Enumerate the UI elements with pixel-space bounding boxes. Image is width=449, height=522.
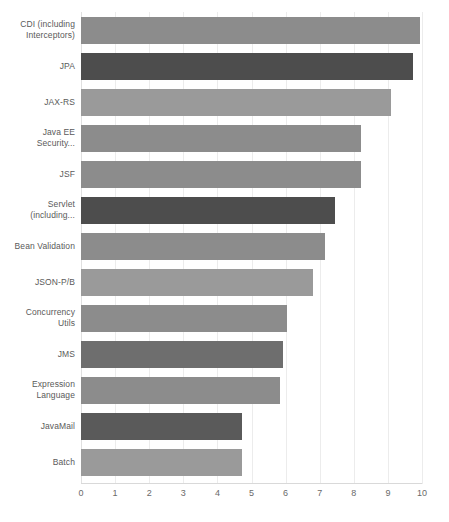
bar-row bbox=[81, 300, 422, 336]
bar-row bbox=[81, 48, 422, 84]
x-axis-tick-8: 8 bbox=[351, 488, 356, 498]
y-axis-label-line: Concurrency bbox=[26, 307, 75, 318]
y-axis-label-line: Bean Validation bbox=[15, 241, 75, 252]
y-axis-label: CDI (includingInterceptors) bbox=[0, 12, 75, 48]
y-axis-label: ConcurrencyUtils bbox=[0, 300, 75, 336]
y-axis-label-line: JSON-P/B bbox=[35, 277, 75, 288]
y-axis-label: JSF bbox=[0, 156, 75, 192]
bar-row bbox=[81, 84, 422, 120]
bar-row bbox=[81, 336, 422, 372]
bar bbox=[81, 197, 335, 224]
x-axis-tick-2: 2 bbox=[147, 488, 152, 498]
y-axis-label-line: JavaMail bbox=[41, 421, 75, 432]
bar bbox=[81, 413, 242, 440]
y-axis-label-line: JSF bbox=[60, 169, 75, 180]
y-axis-label: Batch bbox=[0, 444, 75, 480]
y-axis-label: ExpressionLanguage bbox=[0, 372, 75, 408]
bar-row bbox=[81, 408, 422, 444]
y-axis-label: Java EESecurity... bbox=[0, 120, 75, 156]
x-axis-tick-1: 1 bbox=[113, 488, 118, 498]
x-axis-tick-0: 0 bbox=[78, 488, 83, 498]
bar bbox=[81, 233, 325, 260]
y-axis-label-line: CDI (including bbox=[20, 19, 75, 30]
x-axis-tick-4: 4 bbox=[215, 488, 220, 498]
y-axis-label: JPA bbox=[0, 48, 75, 84]
x-axis-tick-7: 7 bbox=[317, 488, 322, 498]
y-axis-label-line: Java EE bbox=[37, 127, 75, 138]
bar-row bbox=[81, 192, 422, 228]
y-axis-label-line: Utils bbox=[26, 318, 75, 329]
x-axis-line bbox=[81, 483, 422, 484]
y-axis-category-labels: CDI (includingInterceptors)JPAJAX-RSJava… bbox=[0, 12, 75, 484]
bar bbox=[81, 125, 361, 152]
bar bbox=[81, 17, 420, 44]
bar-row bbox=[81, 372, 422, 408]
bar bbox=[81, 449, 242, 476]
y-axis-label-line: Language bbox=[32, 390, 75, 401]
y-axis-label-line: JMS bbox=[58, 349, 75, 360]
bar bbox=[81, 377, 280, 404]
bar bbox=[81, 89, 391, 116]
bar bbox=[81, 305, 287, 332]
y-axis-label-line: JPA bbox=[60, 61, 75, 72]
x-axis-tick-9: 9 bbox=[385, 488, 390, 498]
x-axis-tick-5: 5 bbox=[249, 488, 254, 498]
y-axis-label-line: Batch bbox=[53, 457, 75, 468]
y-axis-label-line: Expression bbox=[32, 379, 75, 390]
x-axis-tick-10: 10 bbox=[417, 488, 427, 498]
y-axis-label: JSON-P/B bbox=[0, 264, 75, 300]
x-axis-tick-labels: 012345678910 bbox=[81, 488, 422, 508]
gridline-10 bbox=[422, 12, 423, 484]
bar-row bbox=[81, 264, 422, 300]
x-axis-tick-6: 6 bbox=[283, 488, 288, 498]
bar bbox=[81, 53, 413, 80]
bar-row bbox=[81, 156, 422, 192]
y-axis-label-line: Servlet bbox=[30, 199, 75, 210]
y-axis-label: Servlet(including... bbox=[0, 192, 75, 228]
bar bbox=[81, 269, 313, 296]
plot-area bbox=[81, 12, 422, 484]
bar-row bbox=[81, 12, 422, 48]
bar bbox=[81, 341, 283, 368]
y-axis-label: JAX-RS bbox=[0, 84, 75, 120]
y-axis-label-line: JAX-RS bbox=[44, 97, 75, 108]
bar-row bbox=[81, 228, 422, 264]
y-axis-label-line: Interceptors) bbox=[20, 30, 75, 41]
bar-row bbox=[81, 120, 422, 156]
bar bbox=[81, 161, 361, 188]
bars bbox=[81, 12, 422, 484]
y-axis-label: JavaMail bbox=[0, 408, 75, 444]
y-axis-label: JMS bbox=[0, 336, 75, 372]
x-axis-tick-3: 3 bbox=[181, 488, 186, 498]
y-axis-label: Bean Validation bbox=[0, 228, 75, 264]
bar-chart: CDI (includingInterceptors)JPAJAX-RSJava… bbox=[0, 0, 449, 522]
y-axis-label-line: Security... bbox=[37, 138, 75, 149]
y-axis-label-line: (including... bbox=[30, 210, 75, 221]
bar-row bbox=[81, 444, 422, 480]
